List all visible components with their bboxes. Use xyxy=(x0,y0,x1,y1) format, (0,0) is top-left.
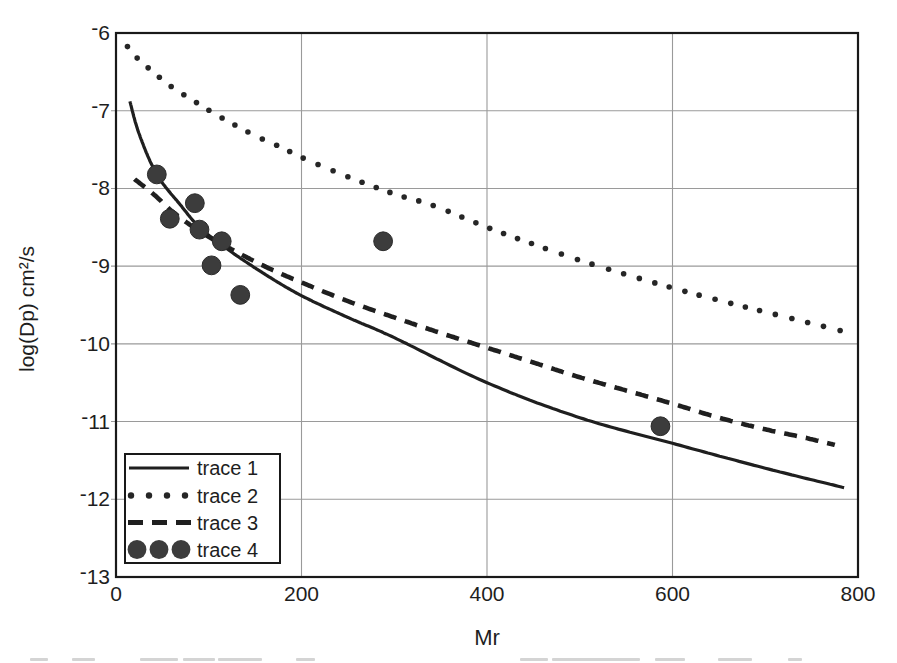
y-tick-label: -9 xyxy=(91,249,110,277)
dot-marker xyxy=(728,301,734,307)
caption-smudge xyxy=(218,658,262,661)
data-point xyxy=(202,256,221,275)
dot-marker xyxy=(529,241,535,247)
x-tick-label: 800 xyxy=(840,582,875,605)
x-tick-label: 600 xyxy=(655,582,690,605)
legend-dot-sample xyxy=(164,492,170,498)
legend-label: trace 4 xyxy=(197,539,258,561)
series-trace-3 xyxy=(135,179,835,445)
legend-label: trace 2 xyxy=(197,485,258,507)
dot-marker xyxy=(743,304,749,310)
legend-label: trace 1 xyxy=(197,457,258,479)
dot-marker xyxy=(430,203,436,209)
y-tick-label: -11 xyxy=(81,405,110,433)
data-point xyxy=(190,220,209,239)
legend-circle-sample xyxy=(150,540,169,559)
data-point xyxy=(160,209,179,228)
dot-marker xyxy=(757,308,763,314)
dot-marker xyxy=(206,107,212,113)
dot-marker xyxy=(837,328,843,334)
legend-dot-sample xyxy=(128,492,134,498)
dot-marker xyxy=(157,74,163,80)
y-tick-label: -6 xyxy=(91,16,110,44)
dot-marker xyxy=(125,44,131,50)
dot-marker xyxy=(821,324,827,330)
y-tick-label: -10 xyxy=(80,327,110,355)
dot-marker xyxy=(259,136,265,142)
dot-marker xyxy=(168,84,174,90)
dot-marker xyxy=(621,271,627,277)
figure: trace 1trace 2trace 3trace 4-6-7-8-9-10-… xyxy=(0,0,897,663)
data-point xyxy=(147,165,166,184)
data-point xyxy=(374,232,393,251)
dot-marker xyxy=(789,316,795,322)
dot-marker xyxy=(345,174,351,180)
dot-marker xyxy=(773,312,779,318)
dot-marker xyxy=(712,297,718,303)
dot-marker xyxy=(696,292,702,298)
caption-smudge xyxy=(72,658,95,661)
dot-marker xyxy=(145,65,151,71)
legend: trace 1trace 2trace 3trace 4 xyxy=(125,454,280,563)
y-tick-label: -13 xyxy=(80,560,110,588)
dot-marker xyxy=(287,149,293,155)
legend-circle-sample xyxy=(172,540,191,559)
caption-smudge xyxy=(140,658,178,661)
caption-smudge xyxy=(296,658,315,661)
dot-marker xyxy=(134,55,140,61)
dot-marker xyxy=(232,122,238,128)
caption-smudge xyxy=(520,658,548,661)
x-tick-label: 200 xyxy=(284,582,319,605)
y-tick-label: -12 xyxy=(80,482,110,510)
dot-marker xyxy=(219,115,225,121)
dot-marker xyxy=(416,198,422,204)
dot-marker xyxy=(330,168,336,174)
legend-circle-sample xyxy=(128,540,147,559)
dot-marker xyxy=(373,185,379,191)
dot-marker xyxy=(559,251,565,257)
y-tick-label: -8 xyxy=(91,171,110,199)
dot-marker xyxy=(666,284,672,290)
caption-smudge xyxy=(655,658,685,661)
x-axis-title: Mr xyxy=(474,625,500,650)
dot-marker xyxy=(181,92,187,98)
dot-marker xyxy=(459,214,465,220)
dot-marker xyxy=(359,179,365,185)
caption-smudge xyxy=(552,658,640,661)
dot-marker xyxy=(805,320,811,326)
data-point xyxy=(185,194,204,213)
caption-smudge xyxy=(788,658,802,661)
cropped-caption-fragment xyxy=(0,655,897,663)
y-tick-label: -7 xyxy=(91,94,110,122)
dot-marker xyxy=(274,142,280,148)
caption-smudge xyxy=(30,658,48,661)
dot-marker xyxy=(501,231,507,237)
legend-dot-sample xyxy=(146,492,152,498)
dot-marker xyxy=(543,246,549,252)
series-trace-4 xyxy=(147,165,669,436)
x-tick-label: 400 xyxy=(469,582,504,605)
caption-smudge xyxy=(183,658,215,661)
dot-marker xyxy=(682,289,688,295)
legend-dot-sample xyxy=(182,492,188,498)
dot-marker xyxy=(194,100,200,106)
x-tick-label: 0 xyxy=(110,582,122,605)
data-point xyxy=(231,285,250,304)
dot-marker xyxy=(401,194,407,200)
dot-marker xyxy=(245,129,251,135)
data-point xyxy=(651,417,670,436)
legend-label: trace 3 xyxy=(197,512,258,534)
data-point xyxy=(212,232,231,251)
dot-marker xyxy=(487,226,493,232)
y-axis-title: log(Dp) cm²/s xyxy=(15,246,38,372)
dot-marker xyxy=(387,190,393,196)
dot-marker xyxy=(589,261,595,267)
dot-marker xyxy=(606,267,612,273)
dot-marker xyxy=(637,276,643,282)
diffusion-coefficient-chart: trace 1trace 2trace 3trace 4-6-7-8-9-10-… xyxy=(0,0,897,663)
dot-marker xyxy=(445,209,451,215)
caption-smudge xyxy=(718,658,752,661)
dot-marker xyxy=(315,162,321,168)
dot-marker xyxy=(652,280,658,286)
dot-marker xyxy=(575,257,581,263)
